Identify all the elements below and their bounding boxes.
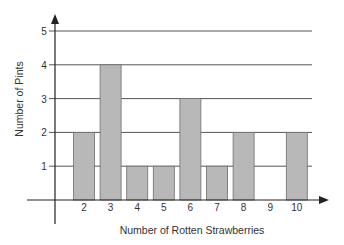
x-tick-labels: 2345678910: [81, 202, 303, 213]
x-tick-label: 8: [241, 202, 247, 213]
x-tick-label: 7: [214, 202, 220, 213]
y-tick-label: 5: [41, 26, 47, 37]
x-tick-label: 5: [161, 202, 167, 213]
x-tick-label: 4: [134, 202, 140, 213]
x-tick-label: 2: [81, 202, 87, 213]
y-tick-labels: 12345: [41, 26, 47, 172]
x-tick-label: 10: [291, 202, 303, 213]
x-tick-label: 9: [267, 202, 273, 213]
y-tick-label: 3: [41, 94, 47, 105]
y-tick-label: 4: [41, 60, 47, 71]
x-tick-label: 6: [188, 202, 194, 213]
x-axis-label: Number of Rotten Strawberries: [120, 224, 265, 236]
bar-6: [180, 99, 201, 200]
y-axis-label: Number of Pints: [13, 61, 25, 136]
bar-5: [153, 166, 174, 200]
x-axis-arrow-icon: [319, 196, 329, 204]
bar-2: [74, 132, 95, 200]
bar-7: [207, 166, 228, 200]
bar-chart: 12345 2345678910 Number of Rotten Strawb…: [0, 0, 344, 245]
x-tick-label: 3: [108, 202, 114, 213]
bar-10: [286, 132, 307, 200]
bar-8: [233, 132, 254, 200]
y-tick-label: 2: [41, 127, 47, 138]
bar-3: [100, 65, 121, 200]
y-axis-arrow-icon: [51, 14, 59, 24]
y-tick-label: 1: [41, 161, 47, 172]
axes: [27, 14, 329, 224]
bar-4: [127, 166, 148, 200]
